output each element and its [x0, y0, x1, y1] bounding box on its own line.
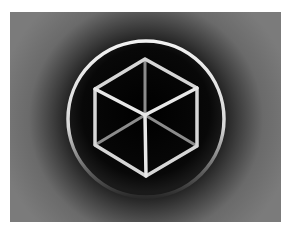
icon-canvas — [10, 12, 281, 222]
cube-badge-illustration — [10, 12, 281, 222]
